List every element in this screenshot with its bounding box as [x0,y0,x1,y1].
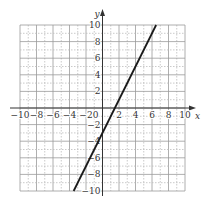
x-tick-label: −4 [63,110,77,120]
y-tick-label: −8 [87,169,101,179]
y-tick-label: 8 [95,37,101,47]
y-tick-label: −10 [82,186,101,196]
x-tick-label: −6 [46,110,60,120]
x-tick-label: −10 [11,110,30,120]
x-tick-label: 4 [133,110,139,120]
x-tick-label: 0 [93,110,99,120]
y-tick-label: −2 [87,120,100,130]
y-tick-label: 4 [95,70,101,80]
y-tick-label: 2 [95,86,101,96]
x-tick-label: 6 [149,110,155,120]
y-axis-arrow-icon [100,9,105,16]
x-tick-label: 2 [116,110,122,120]
x-tick-label: −8 [30,110,44,120]
y-axis-label: y [94,9,101,19]
y-tick-label: 10 [89,20,101,30]
y-tick-label: 6 [95,53,101,63]
coordinate-plane: xy−10−8−6−4−20246810−10−8−6−4−2246810 [0,0,202,204]
x-axis-label: x [195,111,200,121]
x-tick-label: −2 [79,110,92,120]
x-tick-label: 8 [166,110,172,120]
x-tick-label: 10 [179,110,191,120]
